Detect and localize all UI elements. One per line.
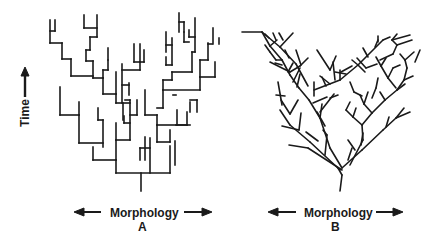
evolution-figure (0, 0, 439, 245)
tree-b (242, 32, 420, 191)
morphology-label-a: Morphology (110, 206, 179, 220)
tree-a (50, 13, 219, 191)
panel-letter-a: A (138, 220, 147, 234)
morphology-label-b: Morphology (304, 206, 373, 220)
time-axis-label: Time (18, 98, 32, 128)
time-arrow-icon (21, 67, 29, 97)
panel-letter-b: B (331, 220, 340, 234)
